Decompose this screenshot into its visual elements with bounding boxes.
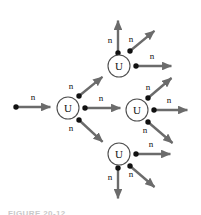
n-u1-down-dot xyxy=(76,117,81,122)
u3-label: U xyxy=(133,104,141,116)
neutron-arrows-group xyxy=(16,21,187,199)
n-u4-right-dot xyxy=(133,151,138,156)
n-incoming-dot xyxy=(13,104,18,109)
n-u3-up-dot xyxy=(145,95,150,100)
n-u4-diag-arrow xyxy=(130,166,155,187)
n-u2-up-label: n xyxy=(108,35,113,45)
figure-container: UUUU nnnnnnnnnnnnn FIGURE 20-12 xyxy=(0,0,201,215)
n-u2-right-dot xyxy=(133,63,138,68)
n-u4-down-dot xyxy=(115,165,120,170)
u1-label: U xyxy=(64,102,72,114)
n-incoming-label: n xyxy=(31,92,36,102)
u4-label: U xyxy=(115,148,123,160)
u2-label: U xyxy=(115,60,123,72)
n-u4-diag-dot xyxy=(127,163,132,168)
n-u3-down-label: n xyxy=(143,125,148,135)
n-u2-right-label: n xyxy=(150,51,155,61)
n-u3-down-dot xyxy=(145,119,150,124)
n-u1-right-dot xyxy=(82,105,87,110)
n-u4-diag-label: n xyxy=(129,169,134,179)
n-u2-diag-label: n xyxy=(129,34,134,44)
n-u3-right-dot xyxy=(151,107,156,112)
n-u1-right-label: n xyxy=(99,93,104,103)
n-u1-down-label: n xyxy=(69,123,74,133)
n-u2-diag-arrow xyxy=(130,31,154,51)
n-u1-up-dot xyxy=(76,93,81,98)
n-u2-diag-dot xyxy=(127,48,132,53)
uranium-nuclei-group: UUUU xyxy=(57,55,148,165)
n-u4-down-label: n xyxy=(108,172,113,182)
chain-reaction-diagram: UUUU nnnnnnnnnnnnn xyxy=(0,0,201,215)
figure-caption: FIGURE 20-12 xyxy=(8,209,66,215)
n-u1-down-arrow xyxy=(79,120,103,142)
n-u3-up-label: n xyxy=(146,82,151,92)
n-u1-up-label: n xyxy=(69,81,74,91)
n-u4-right-label: n xyxy=(149,139,154,149)
n-u3-right-label: n xyxy=(167,95,172,105)
